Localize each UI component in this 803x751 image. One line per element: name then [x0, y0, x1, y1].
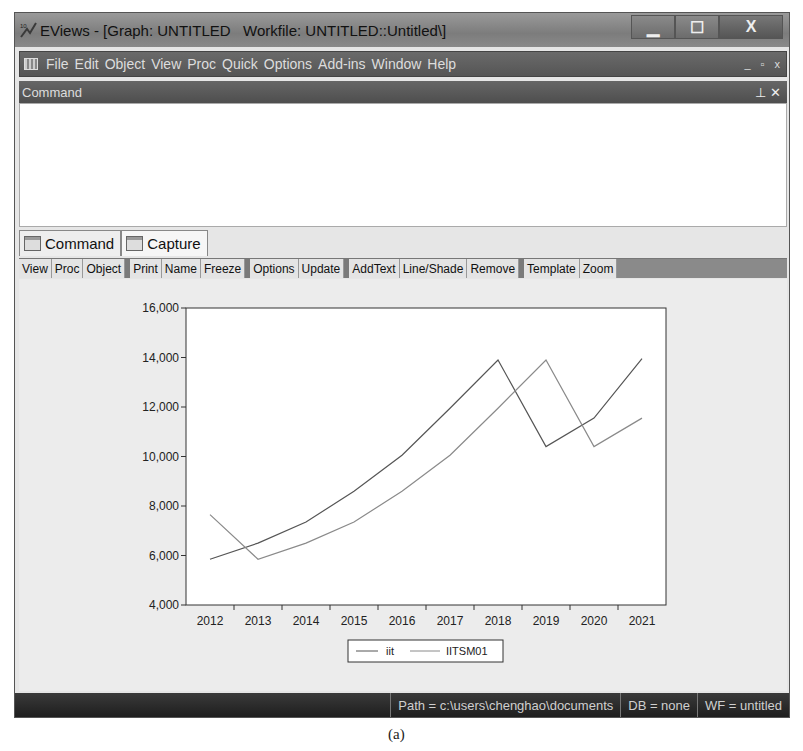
document-icon[interactable]: [24, 58, 38, 70]
maximize-icon: ☐: [690, 18, 704, 37]
y-tick-label: 12,000: [142, 400, 179, 414]
minimize-button[interactable]: ▁: [631, 15, 675, 39]
tab-capture[interactable]: Capture: [121, 230, 207, 256]
command-input-area[interactable]: [19, 103, 787, 227]
svg-text:10: 10: [20, 23, 27, 29]
close-icon: X: [746, 18, 757, 36]
x-tick-label: 2013: [245, 614, 272, 628]
y-tick-label: 10,000: [142, 450, 179, 464]
eviews-logo-icon: 10: [19, 21, 37, 39]
menu-file[interactable]: File: [46, 56, 69, 72]
menu-edit[interactable]: Edit: [75, 56, 99, 72]
x-tick-label: 2018: [485, 614, 512, 628]
freeze-button[interactable]: Freeze: [201, 259, 245, 278]
line-chart[interactable]: 4,0006,0008,00010,00012,00014,00016,0002…: [19, 279, 787, 691]
y-tick-label: 8,000: [149, 499, 179, 513]
x-tick-label: 2021: [629, 614, 656, 628]
y-tick-label: 16,000: [142, 301, 179, 315]
proc-button[interactable]: Proc: [52, 259, 84, 278]
menu-bar: File Edit Object View Proc Quick Options…: [19, 51, 787, 77]
x-tick-label: 2020: [581, 614, 608, 628]
maximize-button[interactable]: ☐: [675, 15, 719, 39]
menu-add-ins[interactable]: Add-ins: [318, 56, 365, 72]
y-tick-label: 4,000: [149, 598, 179, 612]
window-title: EViews - [Graph: UNTITLED Workfile: UNTI…: [40, 22, 446, 39]
tab-label: Command: [45, 235, 114, 252]
minimize-icon: ▁: [647, 18, 659, 37]
y-tick-label: 14,000: [142, 351, 179, 365]
command-pane-header: Command ⊥ ✕: [19, 81, 787, 103]
legend-label-iitsm01: IITSM01: [446, 645, 488, 657]
x-tick-label: 2014: [293, 614, 320, 628]
status-path: Path = c:\users\chenghao\documents: [390, 693, 620, 717]
figure-caption: (a): [388, 726, 405, 743]
menu-object[interactable]: Object: [105, 56, 145, 72]
menu-help[interactable]: Help: [427, 56, 456, 72]
update-button[interactable]: Update: [299, 259, 345, 278]
graph-toolbar: View Proc Object Print Name Freeze Optio…: [19, 258, 787, 278]
window-icon: [126, 236, 143, 251]
x-tick-label: 2019: [533, 614, 560, 628]
y-tick-label: 6,000: [149, 549, 179, 563]
x-tick-label: 2017: [437, 614, 464, 628]
template-button[interactable]: Template: [524, 259, 580, 278]
tab-label: Capture: [147, 235, 200, 252]
options-button[interactable]: Options: [250, 259, 298, 278]
remove-button[interactable]: Remove: [467, 259, 519, 278]
menu-proc[interactable]: Proc: [187, 56, 216, 72]
mdi-minimize-button[interactable]: _: [744, 58, 750, 70]
zoom-button[interactable]: Zoom: [580, 259, 618, 278]
close-icon[interactable]: ✕: [770, 85, 781, 100]
object-button[interactable]: Object: [83, 259, 125, 278]
status-wf: WF = untitled: [697, 693, 789, 717]
command-pane-title: Command: [22, 85, 82, 100]
status-bar: Path = c:\users\chenghao\documents DB = …: [15, 693, 789, 717]
legend-label-iit: iit: [386, 645, 394, 657]
x-tick-label: 2012: [197, 614, 224, 628]
view-button[interactable]: View: [19, 259, 52, 278]
plot-frame: [186, 308, 666, 605]
graph-area[interactable]: 4,0006,0008,00010,00012,00014,00016,0002…: [19, 279, 787, 691]
close-button[interactable]: X: [719, 15, 783, 39]
print-button[interactable]: Print: [130, 259, 162, 278]
status-db: DB = none: [620, 693, 697, 717]
mdi-close-button[interactable]: x: [775, 58, 781, 70]
eviews-window: 10 EViews - [Graph: UNTITLED Workfile: U…: [14, 12, 790, 718]
x-tick-label: 2016: [389, 614, 416, 628]
menu-view[interactable]: View: [151, 56, 181, 72]
name-button[interactable]: Name: [162, 259, 201, 278]
mdi-restore-button[interactable]: ▫: [761, 58, 765, 70]
tab-command[interactable]: Command: [19, 230, 121, 256]
menu-options[interactable]: Options: [264, 56, 312, 72]
menu-window[interactable]: Window: [372, 56, 422, 72]
title-bar[interactable]: 10 EViews - [Graph: UNTITLED Workfile: U…: [15, 13, 789, 47]
menu-quick[interactable]: Quick: [222, 56, 258, 72]
x-tick-label: 2015: [341, 614, 368, 628]
addtext-button[interactable]: AddText: [349, 259, 399, 278]
pin-icon[interactable]: ⊥: [755, 85, 766, 100]
window-icon: [24, 236, 41, 251]
line-shade-button[interactable]: Line/Shade: [400, 259, 468, 278]
command-tabs: Command Capture: [19, 228, 208, 256]
